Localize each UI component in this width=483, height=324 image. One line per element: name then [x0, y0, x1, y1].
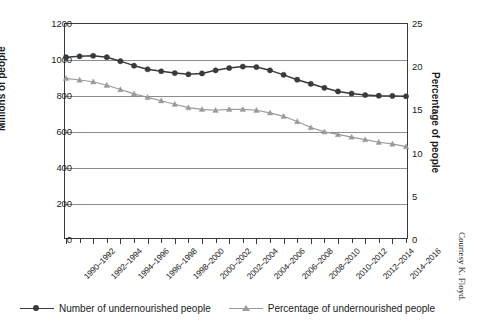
x-axis-tick [256, 239, 257, 244]
x-axis-tick [229, 239, 230, 244]
x-axis-tick [134, 239, 135, 243]
legend-circle-marker-icon [20, 303, 54, 314]
y-tick-label-right: 10 [412, 147, 423, 158]
x-axis-tick [120, 239, 121, 244]
x-axis-tick [148, 239, 149, 244]
gridline [65, 204, 407, 205]
y-tick-label-left: 400 [56, 162, 72, 173]
x-axis-tick [406, 239, 407, 243]
y-tick-label-left: 1200 [51, 18, 72, 29]
x-axis-tick [66, 239, 67, 244]
y-tick-label-left: 0 [67, 234, 72, 245]
y-tick-label-right: 5 [412, 190, 417, 201]
legend-label: Percentage of undernourished people [268, 303, 435, 314]
y-axis-title-right: Percentage of people [430, 72, 441, 173]
gridline [65, 168, 407, 169]
y-tick-label-left: 800 [56, 90, 72, 101]
x-axis-tick [284, 239, 285, 244]
x-axis-tick [297, 239, 298, 243]
y-tick-label-right: 0 [412, 234, 417, 245]
chart-figure: Millions of people Percentage of people … [0, 0, 483, 324]
legend-item-1[interactable]: Number of undernourished people [20, 303, 211, 314]
x-axis-tick [352, 239, 353, 243]
legend-label: Number of undernourished people [59, 303, 211, 314]
legend-item-2[interactable]: Percentage of undernourished people [229, 303, 435, 314]
gridline [65, 60, 407, 61]
chart-legend: Number of undernourished peoplePercentag… [20, 299, 460, 317]
x-axis-tick [188, 239, 189, 243]
x-axis-tick [80, 239, 81, 243]
x-axis-tick [338, 239, 339, 244]
x-axis-tick [243, 239, 244, 243]
x-axis-tick [392, 239, 393, 244]
y-tick-label-right: 15 [412, 104, 423, 115]
x-axis-tick [270, 239, 271, 243]
y-tick-label-right: 25 [412, 18, 423, 29]
x-axis-tick [379, 239, 380, 243]
gridline [65, 96, 407, 97]
credit-text: Courtesy K. Floyd. [457, 232, 467, 301]
x-axis-tick [175, 239, 176, 244]
x-axis-tick [161, 239, 162, 243]
y-tick-label-left: 200 [56, 198, 72, 209]
x-axis-tick [216, 239, 217, 243]
x-axis-tick [365, 239, 366, 244]
legend-triangle-marker-icon [229, 303, 263, 314]
x-axis-tick [324, 239, 325, 243]
x-axis-tick [202, 239, 203, 244]
plot-area [64, 23, 408, 239]
y-tick-label-left: 1000 [51, 54, 72, 65]
y-tick-label-left: 600 [56, 126, 72, 137]
x-axis-tick [93, 239, 94, 244]
y-tick-label-right: 20 [412, 61, 423, 72]
x-axis-tick [107, 239, 108, 243]
gridline [65, 132, 407, 133]
x-axis-tick [311, 239, 312, 244]
y-axis-title-left: Millions of people [0, 47, 7, 131]
